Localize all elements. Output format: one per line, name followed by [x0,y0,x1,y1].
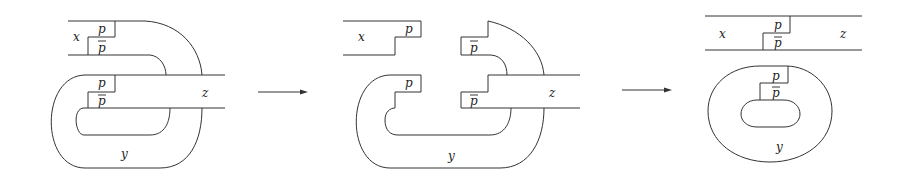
pbar-top-piece [461,21,507,75]
label-z: z [839,27,847,41]
label-pbar-top: p [774,36,782,50]
label-pbar-mid: p [98,94,106,108]
label-p-mid: p [772,69,780,83]
y-outer [708,66,832,162]
label-y: y [120,147,128,161]
arrow-head-icon [664,88,672,93]
outer-arc [488,21,544,75]
label-pbar-top: p [98,41,106,55]
label-y: y [447,149,455,163]
surgery-diagram: x p p p p z y x p p p p z y [0,0,900,183]
label-z: z [548,86,556,100]
label-z: z [201,86,209,100]
arrow-1 [258,90,308,95]
label-x: x [719,27,726,41]
label-p-top: p [774,18,782,32]
label-p-mid: p [98,76,106,90]
panel-after: x p p z p p y [705,16,862,162]
label-x: x [358,30,365,44]
label-x: x [73,30,80,44]
arrow-2 [622,88,672,93]
y-ring-inner [76,108,170,135]
label-p-top: p [405,22,413,36]
arrow-head-icon [300,90,308,95]
label-y: y [775,140,783,154]
pbar-mid-piece [461,75,580,108]
y-inner-hole [741,100,800,127]
label-pbar-mid: p [470,94,478,108]
label-pbar-mid: p [772,86,780,100]
panel-before: x p p p p z y [51,21,225,168]
label-pbar-top: p [470,41,478,55]
x-band-bottom [68,55,166,75]
y-inner [385,75,511,135]
panel-cut: x p p p p z y [343,21,580,168]
label-p-top: p [98,22,106,36]
label-p-mid: p [405,76,413,90]
